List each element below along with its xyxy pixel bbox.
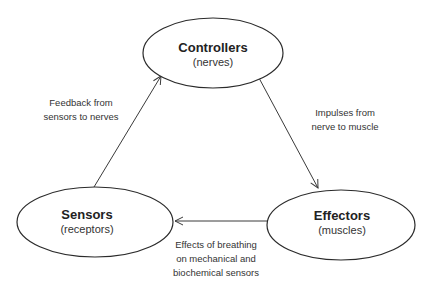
node-sensors-shape: [17, 187, 173, 257]
node-controllers-subtitle: (nerves): [193, 56, 233, 68]
edge-sensors-to-controllers: [94, 76, 161, 187]
node-sensors: Sensors (receptors): [17, 187, 173, 257]
edge-label-line: on mechanical and: [176, 253, 256, 264]
node-effectors-subtitle: (muscles): [318, 224, 366, 236]
edge-label-line: sensors to nerves: [44, 111, 119, 122]
node-sensors-title: Sensors: [61, 207, 112, 222]
edge-label-line: Impulses from: [315, 107, 375, 118]
feedback-loop-diagram: Controllers (nerves) Sensors (receptors)…: [0, 0, 425, 285]
edge-label-controllers-to-effectors: Impulses from nerve to muscle: [311, 107, 378, 132]
node-controllers: Controllers (nerves): [143, 18, 283, 88]
node-sensors-subtitle: (receptors): [60, 223, 113, 235]
node-effectors-title: Effectors: [314, 208, 370, 223]
node-effectors: Effectors (muscles): [267, 190, 415, 260]
edge-label-line: Feedback from: [49, 97, 112, 108]
edge-controllers-to-effectors: [259, 78, 318, 188]
edge-label-line: nerve to muscle: [311, 121, 378, 132]
edge-label-line: biochemical sensors: [173, 267, 259, 278]
edge-label-effectors-to-sensors: Effects of breathing on mechanical and b…: [173, 239, 259, 278]
node-controllers-title: Controllers: [178, 40, 247, 55]
edge-label-line: Effects of breathing: [175, 239, 257, 250]
edge-label-sensors-to-controllers: Feedback from sensors to nerves: [44, 97, 119, 122]
